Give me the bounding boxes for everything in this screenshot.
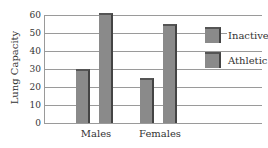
bar-females-inactive [140,78,154,123]
bar-males-inactive [76,69,90,123]
y-tick-label: 10 [26,100,41,110]
x-category-label: Females [135,128,185,139]
legend-label-inactive: Inactive [227,30,268,41]
y-axis-label: Lung Capacity [9,28,20,108]
gridline-60 [44,15,262,16]
bar-chart: Lung Capacity 0 10 20 30 40 50 60 Males … [0,0,268,148]
legend-swatch-athletic [205,52,221,68]
y-tick-label: 40 [26,46,41,56]
legend-swatch-inactive [205,27,221,43]
x-category-label: Males [71,128,121,139]
gridline-0 [44,123,262,124]
legend-label-athletic: Athletic [227,55,268,66]
y-tick-label: 30 [26,64,41,74]
bar-males-athletic [99,13,113,123]
y-tick-label: 0 [26,118,41,128]
bar-females-athletic [163,24,177,123]
y-tick-label: 20 [26,82,41,92]
gridline-40 [44,51,262,52]
y-tick-label: 50 [26,28,41,38]
y-tick-label: 60 [26,10,41,20]
